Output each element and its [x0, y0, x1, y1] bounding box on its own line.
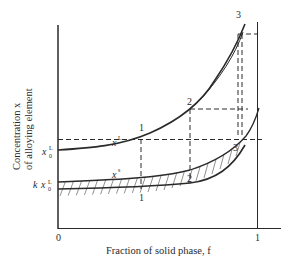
svg-text:of alloying element: of alloying element [23, 88, 34, 170]
svg-text:x: x [111, 169, 117, 180]
solidification-diagram: x 0 L k x 0 L Concentration x of alloyin… [0, 0, 292, 263]
solid-curve-upper [58, 108, 259, 182]
svg-text:L: L [49, 145, 53, 151]
liquid-point-2: 2 [187, 96, 192, 107]
svg-text:L: L [48, 179, 52, 185]
solid-point-3: 3 [233, 142, 238, 153]
liquid-curve [58, 24, 245, 150]
hatched-band [60, 136, 242, 196]
liquid-point-3: 3 [236, 9, 241, 20]
svg-text:k: k [33, 179, 38, 190]
svg-text:x: x [40, 179, 46, 190]
svg-text:x: x [111, 137, 117, 148]
svg-text:0: 0 [48, 186, 51, 192]
svg-text:Concentration x: Concentration x [11, 102, 22, 170]
svg-text:s: s [118, 167, 121, 173]
x-axis-label: Fraction of solid phase, f [106, 245, 211, 256]
x-tick-0: 0 [56, 232, 61, 243]
liquid-curve-label: x L [111, 135, 122, 148]
x-tick-1: 1 [255, 232, 260, 243]
svg-text:L: L [118, 135, 122, 141]
liquid-point-1: 1 [139, 122, 144, 133]
solid-curve-label: x s [111, 167, 121, 180]
solid-point-2: 2 [187, 173, 192, 184]
svg-text:0: 0 [49, 153, 52, 159]
y-axis-label: Concentration x of alloying element [11, 88, 34, 170]
svg-text:x: x [41, 146, 47, 157]
y-tick-liquid: x 0 L [41, 145, 53, 159]
solid-point-1: 1 [139, 192, 144, 203]
y-tick-solid: k x 0 L [33, 179, 52, 192]
